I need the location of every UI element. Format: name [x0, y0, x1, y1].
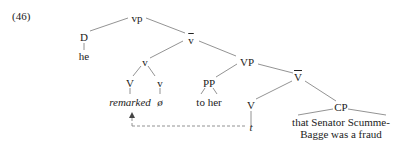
movement-arrow	[132, 118, 246, 126]
arrowhead-icon	[129, 112, 135, 118]
node-PP: PP	[203, 77, 215, 89]
node-CP: CP	[334, 101, 347, 113]
node-V-lower: V	[247, 99, 255, 111]
leaf-null: ø	[157, 96, 163, 108]
node-D: D	[80, 31, 88, 43]
leaf-he: he	[79, 50, 89, 62]
trace-t: t	[249, 121, 252, 133]
node-v-small: v	[157, 77, 163, 89]
node-Vbar: V	[294, 71, 302, 83]
node-vp: vp	[132, 12, 143, 24]
node-v: v	[142, 56, 148, 68]
leaf-to-her: to her	[196, 96, 221, 108]
node-vbar: v	[188, 34, 194, 46]
node-V: V	[126, 77, 134, 89]
leaf-cp-text-1: that Senator Scumme-	[292, 116, 390, 128]
leaf-remarked: remarked	[109, 96, 151, 108]
leaf-cp-text-2: Bagge was a fraud	[300, 128, 382, 140]
node-VP: VP	[240, 56, 254, 68]
